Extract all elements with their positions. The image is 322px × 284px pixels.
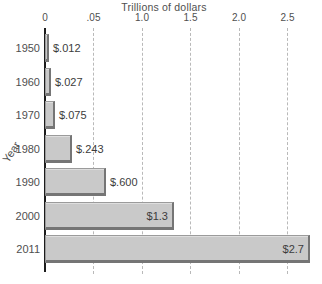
bar-1970 <box>45 101 55 129</box>
bar-1950 <box>45 34 49 62</box>
category-label-1970: 1970 <box>0 109 40 121</box>
x-tick-label-0: 0 <box>42 12 48 23</box>
value-label-1980: $.243 <box>76 143 104 155</box>
x-tick-label-1: .05 <box>87 12 101 23</box>
value-label-1950: $.012 <box>53 42 81 54</box>
bar-2011 <box>45 235 310 263</box>
bar-1990 <box>45 168 106 196</box>
category-label-1990: 1990 <box>0 176 40 188</box>
bar-1980 <box>45 135 72 163</box>
chart-title: Trillions of dollars <box>34 1 294 13</box>
category-label-1950: 1950 <box>0 42 40 54</box>
value-label-1990: $.600 <box>110 176 138 188</box>
federal-budget-bar-chart: Trillions of dollars Year 0.051.01.52.02… <box>0 0 322 284</box>
x-tick-label-3: 1.5 <box>184 12 198 23</box>
category-label-2011: 2011 <box>0 243 40 255</box>
x-tick-label-4: 2.0 <box>232 12 246 23</box>
x-tick-label-5: 2.5 <box>281 12 295 23</box>
bar-1960 <box>45 68 51 96</box>
value-label-2000: $1.3 <box>147 210 168 222</box>
category-label-1960: 1960 <box>0 76 40 88</box>
x-tick-label-2: 1.0 <box>135 12 149 23</box>
value-label-2011: $2.7 <box>283 243 304 255</box>
category-label-1980: 1980 <box>0 143 40 155</box>
category-label-2000: 2000 <box>0 210 40 222</box>
value-label-1970: $.075 <box>59 109 87 121</box>
value-label-1960: $.027 <box>55 76 83 88</box>
